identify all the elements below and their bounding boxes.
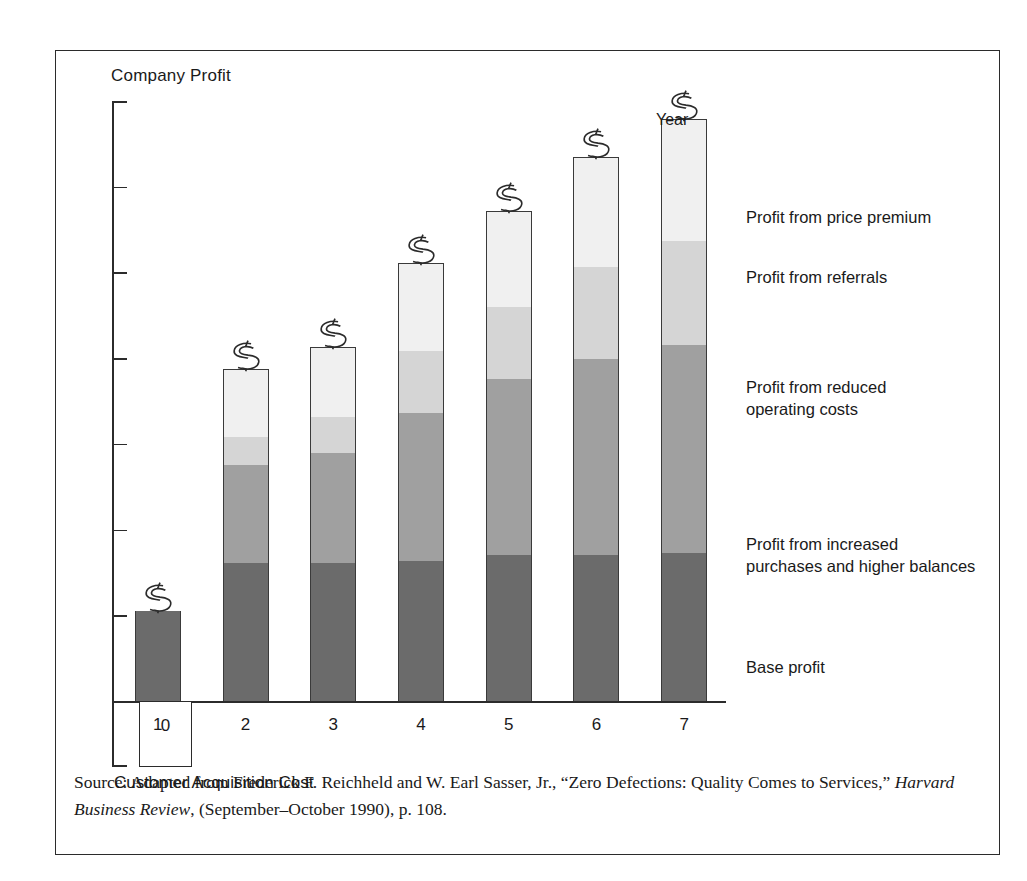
bar-segment [310, 563, 356, 701]
bar-segment [310, 347, 356, 417]
legend-item: Profit from reduced operating costs [746, 376, 886, 421]
bar-segment [310, 417, 356, 453]
bar-segment [398, 263, 444, 351]
bar-year-5[interactable] [486, 211, 532, 701]
bar-segment [661, 241, 707, 345]
bar-year-4[interactable] [398, 263, 444, 701]
bar-segment [223, 369, 269, 437]
x-axis-label-2: 2 [216, 715, 276, 735]
bar-segment [310, 453, 356, 563]
bar-segment [398, 413, 444, 561]
bar-segment [223, 563, 269, 701]
bar-segment [486, 211, 532, 307]
x-axis-label-1: 1 [128, 715, 188, 735]
bar-segment [661, 345, 707, 553]
chart-area: Company Profit 0 1234567 Year Customer A… [56, 51, 1001, 761]
y-axis-title: Company Profit [111, 66, 231, 86]
bar-segment [661, 119, 707, 241]
axis-extension-line [112, 701, 114, 767]
figure-frame: Company Profit 0 1234567 Year Customer A… [55, 50, 1000, 855]
bar-segment [573, 157, 619, 267]
bar-segment [223, 437, 269, 465]
source-prefix: Source: Adapted from Frederick F. Reichh… [74, 772, 895, 792]
bar-segment [573, 267, 619, 359]
legend-item: Profit from referrals [746, 266, 887, 288]
x-axis-label-7: 7 [654, 715, 714, 735]
bar-segment [573, 555, 619, 701]
bar-year-3[interactable] [310, 347, 356, 701]
bar-segment [573, 359, 619, 555]
x-axis-title: Year [656, 111, 688, 129]
x-axis-label-6: 6 [566, 715, 626, 735]
bar-segment [398, 561, 444, 701]
source-suffix: , (September–October 1990), p. 108. [190, 799, 447, 819]
bars-container [112, 101, 726, 701]
bar-segment [398, 351, 444, 413]
legend-item: Base profit [746, 656, 825, 678]
bar-segment [223, 465, 269, 563]
bar-year-2[interactable] [223, 369, 269, 701]
legend-item: Profit from increased purchases and high… [746, 533, 975, 578]
bar-segment [486, 307, 532, 379]
bar-segment [135, 611, 181, 701]
x-axis-label-4: 4 [391, 715, 451, 735]
bar-segment [661, 553, 707, 701]
bar-segment [486, 555, 532, 701]
x-axis-label-5: 5 [479, 715, 539, 735]
below-axis-band: 0 1234567 [112, 701, 726, 767]
bar-segment [486, 379, 532, 555]
source-citation: Source: Adapted from Frederick F. Reichh… [74, 769, 984, 823]
axis-foot-tick [112, 765, 127, 767]
bar-year-7[interactable] [661, 119, 707, 701]
legend-item: Profit from price premium [746, 206, 931, 228]
x-axis-label-3: 3 [303, 715, 363, 735]
bar-year-6[interactable] [573, 157, 619, 701]
bar-year-1[interactable] [135, 611, 181, 701]
